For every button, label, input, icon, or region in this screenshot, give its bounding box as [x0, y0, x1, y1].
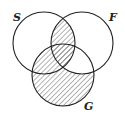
venn-svg: S F G — [0, 0, 125, 115]
label-s: S — [13, 11, 21, 24]
venn-diagram: S F G — [0, 0, 125, 115]
label-f: F — [108, 11, 118, 24]
label-g: G — [84, 100, 93, 113]
